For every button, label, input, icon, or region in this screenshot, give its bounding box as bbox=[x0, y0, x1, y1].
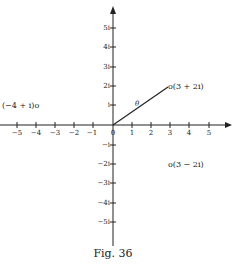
x-tick-label: 4 bbox=[187, 129, 192, 137]
y-tick-label: 4i bbox=[103, 43, 110, 51]
x-tick-label: −1 bbox=[87, 129, 97, 137]
origin-label: 0 bbox=[111, 129, 115, 137]
x-tick-label: 1 bbox=[130, 129, 134, 137]
y-tick-label: −i bbox=[102, 141, 111, 149]
point-label-3-plus-2i: o(3 + 2i) bbox=[168, 82, 204, 91]
point-label-minus-4-plus-i: (−4 + i)o bbox=[2, 101, 39, 110]
x-tick-label: −2 bbox=[69, 129, 79, 137]
imaginary-axis-arrow-icon bbox=[110, 6, 116, 14]
y-tick-label: 2i bbox=[103, 82, 110, 90]
x-tick-label: 5 bbox=[207, 129, 211, 137]
complex-plane-figure: −5 −4 −3 −2 −1 1 2 3 4 5 0 5i 4i bbox=[0, 0, 233, 264]
y-tick-label: −3i bbox=[97, 179, 110, 187]
x-tick-label: −3 bbox=[50, 129, 60, 137]
y-tick-label: 5i bbox=[103, 24, 110, 32]
x-tick-label: 2 bbox=[149, 129, 153, 137]
x-tick-label: −4 bbox=[31, 129, 42, 137]
y-tick-label: −4i bbox=[97, 199, 110, 207]
y-tick-label: 3i bbox=[103, 63, 110, 71]
x-tick-label: 3 bbox=[168, 129, 172, 137]
y-tick-label: −2i bbox=[97, 160, 110, 168]
real-axis-arrow-icon bbox=[225, 122, 232, 128]
x-tick-label: −5 bbox=[12, 129, 22, 137]
point-label-3-minus-2i: o(3 − 2i) bbox=[168, 160, 204, 169]
vector-3-plus-2i bbox=[113, 87, 168, 125]
x-tick-labels: −5 −4 −3 −2 −1 1 2 3 4 5 0 bbox=[12, 129, 211, 137]
figure-caption: Fig. 36 bbox=[93, 247, 132, 260]
y-tick-label: −5i bbox=[97, 218, 110, 226]
argand-diagram: −5 −4 −3 −2 −1 1 2 3 4 5 0 5i 4i bbox=[0, 0, 233, 264]
